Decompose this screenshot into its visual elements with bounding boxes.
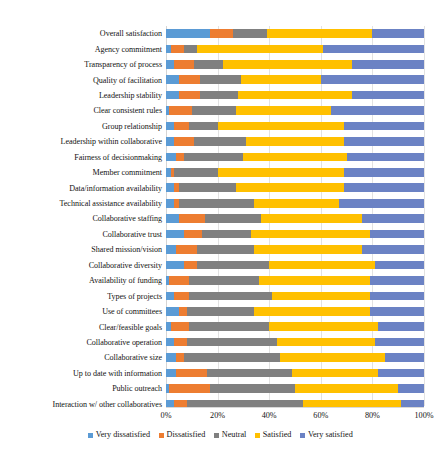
bar-segment-dissatisfied: [176, 369, 207, 378]
bar-segment-very-dissatisfied: [166, 199, 174, 208]
x-tick-label: 0%: [161, 410, 172, 421]
bar-segment-very-satisfied: [385, 353, 424, 362]
bar-segment-very-dissatisfied: [166, 245, 176, 254]
bar-segment-neutral: [179, 183, 236, 192]
bar-segment-very-dissatisfied: [166, 292, 174, 301]
bar-segment-neutral: [174, 168, 218, 177]
bar-segment-neutral: [197, 245, 254, 254]
bar-segment-very-dissatisfied: [166, 230, 184, 239]
bar-segment-neutral: [197, 261, 269, 270]
legend-swatch-icon: [300, 433, 305, 438]
bar-segment-very-dissatisfied: [166, 122, 174, 131]
bar-segment-dissatisfied: [174, 137, 195, 146]
legend-swatch-icon: [159, 433, 164, 438]
chart-row: Collaborative staffing: [0, 211, 441, 226]
bar-track: [166, 304, 424, 319]
bar-track: [166, 211, 424, 226]
bar-track: [166, 165, 424, 180]
bar-track: [166, 57, 424, 72]
bar-segment-satisfied: [236, 106, 331, 115]
stacked-bar: [166, 168, 424, 177]
legend-item-very-satisfied[interactable]: Very satisfied: [300, 430, 352, 440]
bar-track: [166, 242, 424, 257]
chart-row: Clear consistent rules: [0, 103, 441, 118]
category-label: Data/information availability: [0, 184, 166, 193]
bar-segment-neutral: [189, 122, 217, 131]
category-label: Transparency of process: [0, 60, 166, 69]
bar-track: [166, 350, 424, 365]
bar-segment-very-dissatisfied: [166, 183, 174, 192]
chart-row: Collaborative size: [0, 350, 441, 365]
bar-segment-very-satisfied: [344, 122, 424, 131]
bar-segment-satisfied: [292, 369, 377, 378]
bar-segment-satisfied: [218, 122, 344, 131]
stacked-bar: [166, 384, 424, 393]
bar-segment-dissatisfied: [184, 261, 197, 270]
stacked-bar: [166, 322, 424, 331]
bar-segment-very-satisfied: [378, 369, 424, 378]
chart-row: Leadership within collaborative: [0, 134, 441, 149]
bar-segment-very-dissatisfied: [166, 214, 179, 223]
legend-item-neutral[interactable]: Neutral: [214, 430, 246, 440]
stacked-bar: [166, 137, 424, 146]
bar-segment-neutral: [184, 353, 279, 362]
chart-row: Fairness of decisionmaking: [0, 150, 441, 165]
bar-segment-very-satisfied: [352, 91, 424, 100]
bar-segment-satisfied: [246, 137, 344, 146]
bar-segment-dissatisfied: [169, 384, 210, 393]
category-label: Clear consistent rules: [0, 106, 166, 115]
bar-segment-neutral: [194, 137, 246, 146]
bar-track: [166, 366, 424, 381]
bar-segment-satisfied: [272, 292, 370, 301]
bar-segment-dissatisfied: [179, 75, 200, 84]
bar-segment-very-satisfied: [347, 153, 424, 162]
legend-swatch-icon: [214, 433, 219, 438]
bar-segment-satisfied: [269, 322, 377, 331]
bar-segment-dissatisfied: [210, 29, 233, 38]
legend-item-satisfied[interactable]: Satisfied: [255, 430, 291, 440]
bar-segment-very-satisfied: [370, 307, 424, 316]
bar-segment-very-satisfied: [362, 214, 424, 223]
x-tick-label: 60%: [313, 410, 328, 421]
bar-segment-very-dissatisfied: [166, 137, 174, 146]
legend-item-dissatisfied[interactable]: Dissatisfied: [159, 430, 205, 440]
bar-segment-satisfied: [280, 353, 386, 362]
legend-item-very-dissatisfied[interactable]: Very dissatisfied: [88, 430, 150, 440]
bar-segment-very-satisfied: [344, 137, 424, 146]
chart-title: [0, 0, 441, 6]
category-label: Group relationship: [0, 122, 166, 131]
bar-segment-neutral: [189, 292, 272, 301]
bar-segment-very-satisfied: [375, 338, 424, 347]
stacked-bar: [166, 75, 424, 84]
bar-segment-dissatisfied: [179, 307, 187, 316]
bar-segment-satisfied: [254, 199, 339, 208]
category-label: Fairness of decisionmaking: [0, 153, 166, 162]
bar-segment-very-satisfied: [398, 384, 424, 393]
stacked-bar: [166, 153, 424, 162]
bar-track: [166, 180, 424, 195]
category-label: Types of projects: [0, 292, 166, 301]
stacked-bar: [166, 338, 424, 347]
stacked-bar: [166, 276, 424, 285]
bar-segment-very-dissatisfied: [166, 29, 210, 38]
category-label: Quality of facilitation: [0, 76, 166, 85]
stacked-bar: [166, 292, 424, 301]
category-label: Collaborative size: [0, 353, 166, 362]
bar-segment-very-satisfied: [352, 60, 424, 69]
category-label: Shared mission/vision: [0, 245, 166, 254]
chart-row: Collaborative trust: [0, 227, 441, 242]
bar-segment-satisfied: [251, 230, 370, 239]
bar-segment-satisfied: [277, 338, 375, 347]
bar-segment-very-dissatisfied: [166, 91, 179, 100]
bar-segment-very-satisfied: [370, 292, 424, 301]
bar-segment-neutral: [179, 199, 254, 208]
bar-track: [166, 381, 424, 396]
bar-segment-satisfied: [241, 75, 321, 84]
category-label: Clear/feasible goals: [0, 323, 166, 332]
bar-track: [166, 72, 424, 87]
bar-segment-very-satisfied: [344, 168, 424, 177]
category-label: Public outreach: [0, 384, 166, 393]
bar-segment-dissatisfied: [174, 122, 189, 131]
bar-segment-satisfied: [295, 384, 398, 393]
chart-row: Overall satisfaction: [0, 26, 441, 41]
